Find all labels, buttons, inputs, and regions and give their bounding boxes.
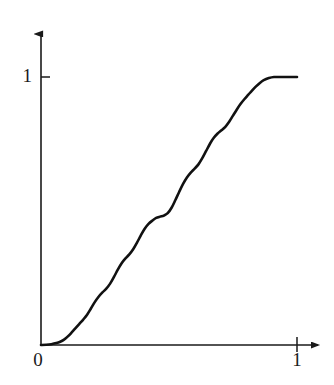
y-axis-label-1: 1: [14, 66, 32, 85]
chart-canvas: [0, 0, 334, 385]
cdf-curve-path: [41, 77, 297, 345]
chart-figure: 1 0 1: [0, 0, 334, 385]
x-axis-label-0: 0: [30, 350, 46, 369]
x-axis-label-1: 1: [289, 350, 305, 369]
